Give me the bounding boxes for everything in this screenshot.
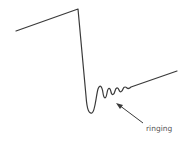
- arrow-shaft: [119, 105, 143, 123]
- arrow-head-icon: [116, 103, 123, 109]
- ringing-waveform-diagram: ringing: [0, 0, 186, 146]
- waveform-line: [16, 9, 177, 113]
- ringing-label: ringing: [146, 124, 173, 133]
